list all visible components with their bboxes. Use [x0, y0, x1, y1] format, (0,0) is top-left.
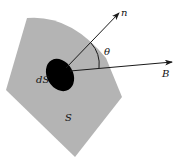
label-angle: θ [104, 46, 110, 57]
diagram-canvas: n B θ dS S [0, 0, 178, 167]
label-surface: S [65, 112, 72, 123]
label-element: dS [36, 74, 49, 85]
label-normal: n [121, 7, 127, 18]
flux-diagram: n B θ dS S [0, 0, 178, 167]
label-field: B [161, 68, 169, 79]
